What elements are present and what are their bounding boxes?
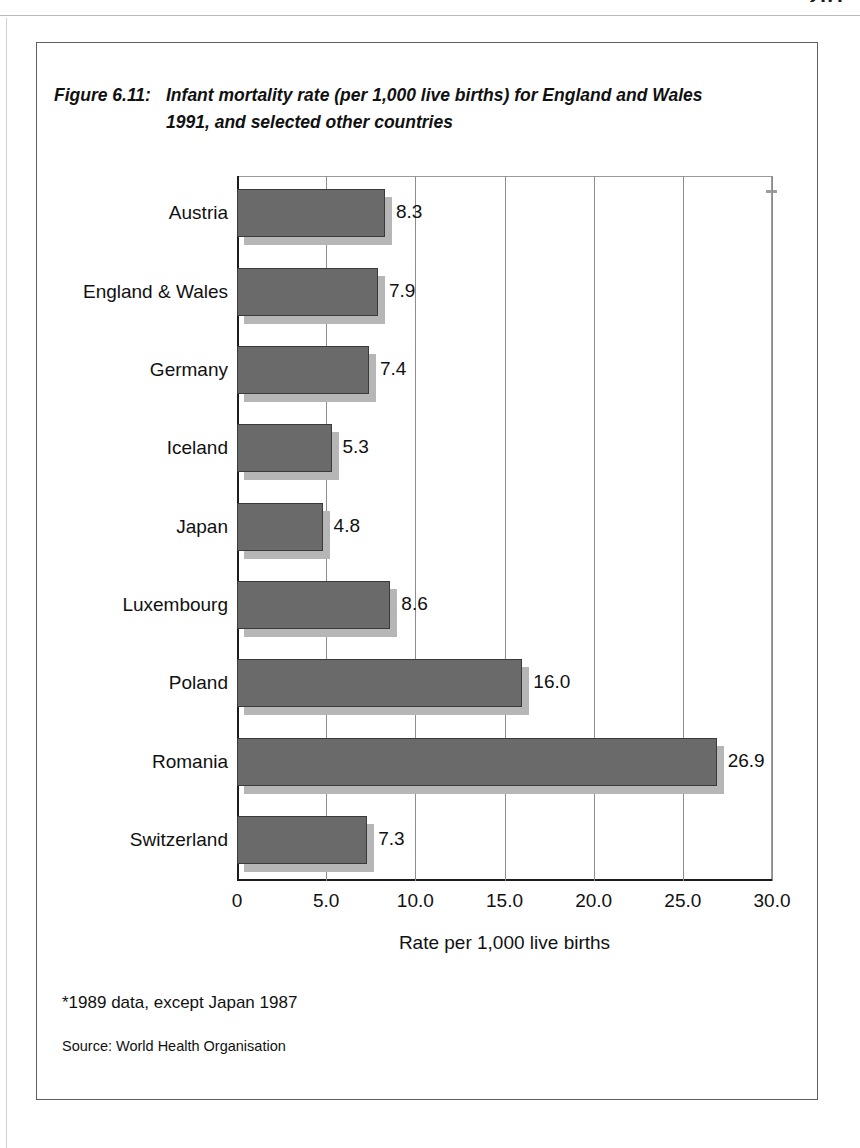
document-page: 201 Figure 6.11:Infant mortality rate (p… <box>0 0 860 1148</box>
figure-frame <box>36 42 818 1100</box>
figure-title-line2: 1991, and selected other countries <box>166 112 453 132</box>
figure-title: Infant mortality rate (per 1,000 live bi… <box>166 82 736 136</box>
figure-footnote: *1989 data, except Japan 1987 <box>62 993 297 1013</box>
figure-label: Figure 6.11: <box>54 82 166 109</box>
figure-title-line1: Infant mortality rate (per 1,000 live bi… <box>166 85 702 105</box>
page-top-rule <box>0 15 860 16</box>
page-number: 201 <box>808 0 846 2</box>
page-left-edge <box>6 18 7 1148</box>
figure-caption: Figure 6.11:Infant mortality rate (per 1… <box>54 82 754 136</box>
figure-source: Source: World Health Organisation <box>62 1038 286 1054</box>
